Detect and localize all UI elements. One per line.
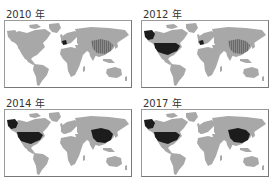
map-panel-2010: 2010 年 xyxy=(4,6,132,88)
world-map xyxy=(141,20,269,88)
world-map xyxy=(141,109,269,177)
panel-title: 2017 年 xyxy=(143,95,182,110)
map-panel-2017: 2017 年 xyxy=(141,95,269,177)
world-map xyxy=(4,20,132,88)
panel-title: 2012 年 xyxy=(143,6,182,21)
world-map xyxy=(4,109,132,177)
panel-title: 2014 年 xyxy=(6,95,45,110)
map-panel-2012: 2012 年 xyxy=(141,6,269,88)
map-panel-2014: 2014 年 xyxy=(4,95,132,177)
panel-title: 2010 年 xyxy=(6,6,45,21)
